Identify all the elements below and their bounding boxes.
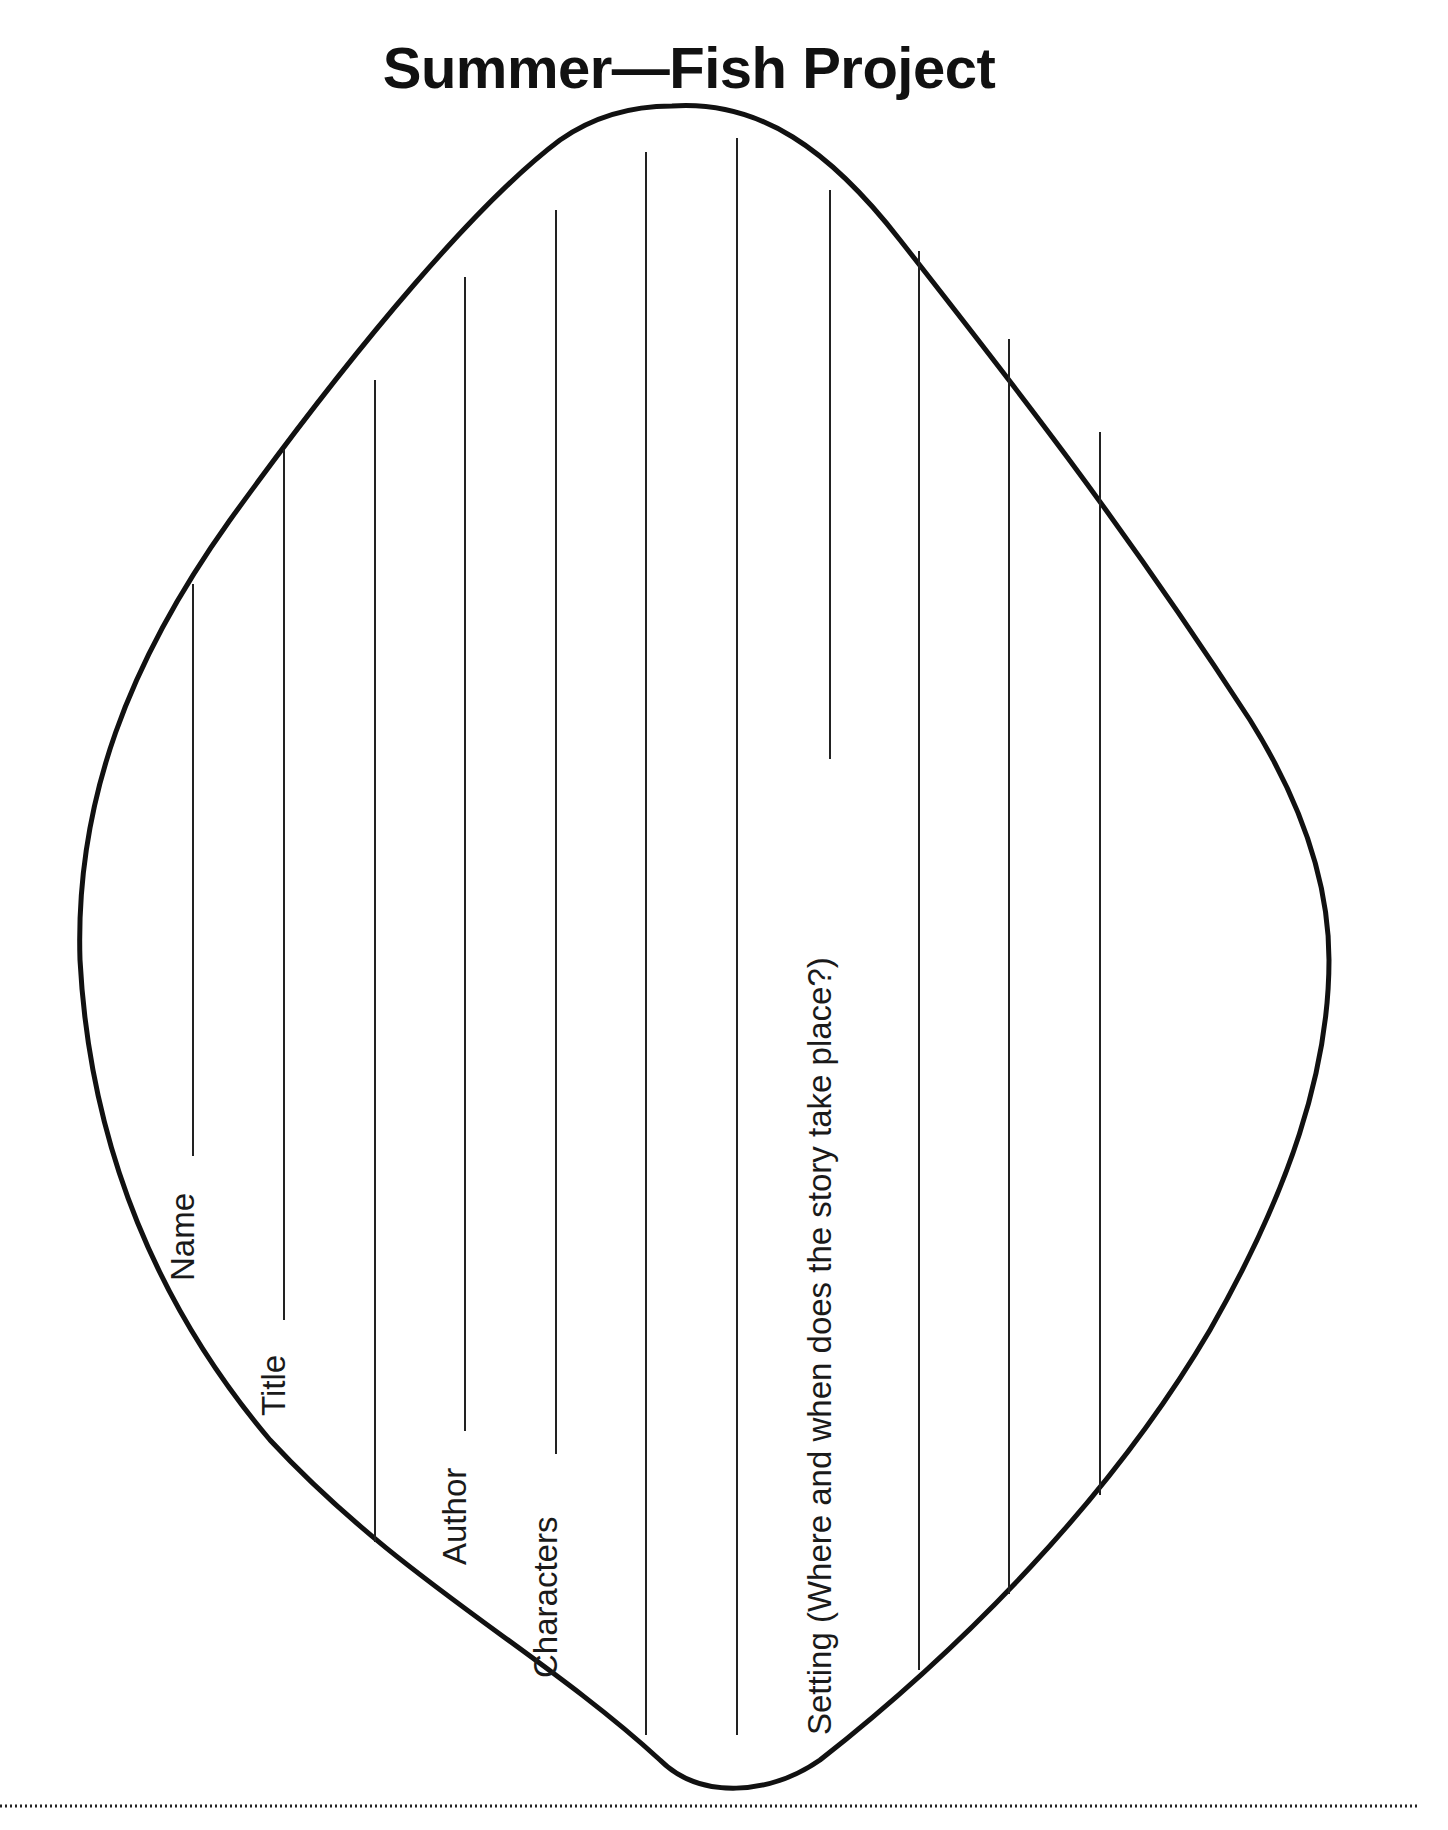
setting-label: Setting (Where and when does the story t… [801, 957, 838, 1735]
title-label: Title [255, 1355, 292, 1416]
fish-outline [80, 106, 1329, 1789]
author-label: Author [436, 1468, 473, 1565]
name-label: Name [164, 1193, 201, 1281]
characters-label: Characters [527, 1517, 564, 1678]
worksheet-page: Summer—Fish Project Name Title Author Ch… [0, 0, 1448, 1830]
fish-drawing: Name Title Author Characters Setting (Wh… [0, 0, 1448, 1830]
